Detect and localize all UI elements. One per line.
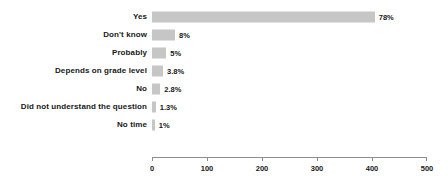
bar-row: Don't know8% [0,26,448,44]
bar-group: 3.8% [152,66,184,77]
bar-row: Probably5% [0,44,448,62]
bar-group: 78% [152,12,394,23]
bar-row: No2.8% [0,80,448,98]
category-label: Depends on grade level [0,66,147,76]
x-axis-tick [317,157,318,161]
bar [152,102,156,113]
bar-row: Depends on grade level3.8% [0,62,448,80]
bar-rows: Yes78%Don't know8%Probably5%Depends on g… [0,8,448,134]
x-axis-tick-label: 500 [421,164,434,173]
bar-group: 8% [152,30,190,41]
bar-group: 1% [152,120,170,131]
x-axis-tick [262,157,263,161]
bar [152,48,166,59]
x-axis-tick [426,157,427,161]
category-label: No [0,84,147,94]
category-label: Did not understand the question [0,102,147,112]
bar [152,66,163,77]
bar-row: Did not understand the question1.3% [0,98,448,116]
x-axis-tick-label: 300 [311,164,324,173]
x-axis-tick [152,157,153,161]
bar-value-label: 5% [170,48,181,58]
x-axis-tick-label: 100 [201,164,214,173]
category-label: Don't know [0,30,147,40]
x-axis-tick-label: 400 [366,164,379,173]
x-axis-tick-label: 200 [256,164,269,173]
category-label: Yes [0,12,147,22]
bar-row: No time1% [0,116,448,134]
category-label: Probably [0,48,147,58]
bar-value-label: 3.8% [167,66,184,76]
bar-value-label: 1.3% [160,102,177,112]
bar-value-label: 8% [179,30,190,40]
category-label: No time [0,120,147,130]
x-axis-tick [207,157,208,161]
bar-value-label: 78% [379,12,394,22]
plot-area: Yes78%Don't know8%Probably5%Depends on g… [0,0,448,185]
horizontal-bar-chart: Yes78%Don't know8%Probably5%Depends on g… [0,0,448,185]
bar [152,30,175,41]
x-axis-tick [372,157,373,161]
bar-row: Yes78% [0,8,448,26]
bar [152,84,160,95]
x-axis: 0100200300400500 [152,157,427,158]
x-axis-tick-label: 0 [150,164,154,173]
bar-group: 5% [152,48,181,59]
bar [152,12,375,23]
bar [152,120,155,131]
bar-value-label: 2.8% [164,84,181,94]
bar-value-label: 1% [159,120,170,130]
bar-group: 1.3% [152,102,177,113]
bar-group: 2.8% [152,84,181,95]
